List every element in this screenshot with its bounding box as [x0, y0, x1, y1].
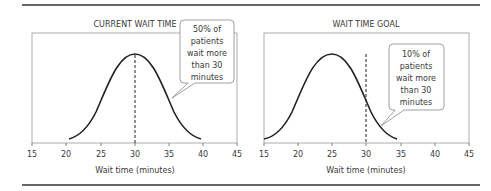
svg-text:10% of: 10% of — [402, 50, 430, 59]
svg-text:20: 20 — [61, 150, 71, 159]
x-axis-label: Wait time (minutes) — [326, 166, 405, 175]
x-axis-ticks — [32, 143, 237, 146]
svg-text:wait more: wait more — [187, 49, 227, 58]
distribution-curve — [264, 54, 397, 139]
svg-text:minutes: minutes — [191, 73, 223, 82]
svg-text:15: 15 — [259, 150, 269, 159]
svg-text:patients: patients — [191, 37, 224, 46]
svg-text:30: 30 — [361, 150, 371, 159]
x-axis-ticks — [264, 143, 469, 146]
callout-bubble: 10% of patients wait more than 30 minute… — [381, 44, 444, 126]
svg-text:50% of: 50% of — [193, 25, 221, 34]
svg-text:wait more: wait more — [396, 74, 436, 83]
svg-text:40: 40 — [430, 150, 440, 159]
wait-time-figure: CURRENT WAIT TIME 15 20 25 30 35 40 45 W… — [0, 0, 491, 191]
callout-bubble: 50% of patients wait more than 30 minute… — [172, 20, 234, 98]
chart-title: WAIT TIME GOAL — [333, 20, 400, 29]
x-tick-labels: 15 20 25 30 35 40 45 — [259, 150, 474, 159]
x-tick-labels: 15 20 25 30 35 40 45 — [27, 150, 242, 159]
chart-title: CURRENT WAIT TIME — [94, 20, 177, 29]
svg-text:patients: patients — [400, 62, 433, 71]
svg-text:minutes: minutes — [400, 98, 432, 107]
svg-text:than 30: than 30 — [401, 86, 432, 95]
svg-text:25: 25 — [327, 150, 337, 159]
svg-text:15: 15 — [27, 150, 37, 159]
wait-time-goal-chart: WAIT TIME GOAL 15 20 25 30 35 40 45 Wait… — [259, 20, 474, 175]
x-axis-label: Wait time (minutes) — [95, 166, 174, 175]
svg-text:than 30: than 30 — [192, 61, 223, 70]
svg-text:35: 35 — [164, 150, 174, 159]
svg-text:40: 40 — [198, 150, 208, 159]
svg-text:30: 30 — [130, 150, 140, 159]
svg-text:45: 45 — [464, 150, 474, 159]
svg-text:35: 35 — [396, 150, 406, 159]
current-wait-time-chart: CURRENT WAIT TIME 15 20 25 30 35 40 45 W… — [27, 20, 242, 175]
svg-text:20: 20 — [293, 150, 303, 159]
svg-text:45: 45 — [232, 150, 242, 159]
svg-text:25: 25 — [96, 150, 106, 159]
